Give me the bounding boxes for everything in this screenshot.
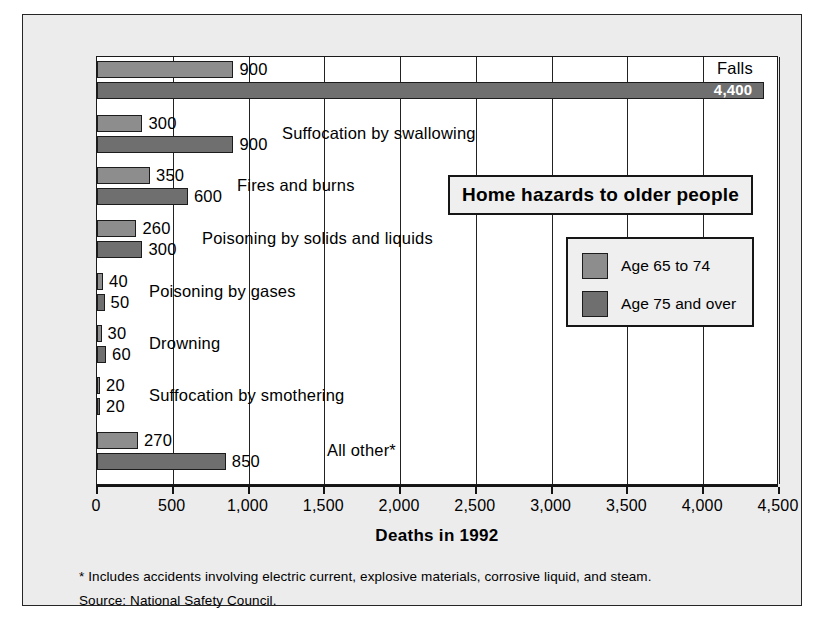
gridline [552, 57, 553, 484]
x-tick-label: 1,500 [303, 497, 344, 515]
gridline [324, 57, 325, 484]
x-tick-label: 1,000 [227, 497, 268, 515]
gridline [400, 57, 401, 484]
bar-value-label: 20 [106, 397, 125, 416]
bar [97, 294, 105, 311]
legend: Age 65 to 74 Age 75 and over [566, 237, 754, 327]
category-label: Poisoning by gases [149, 282, 296, 301]
bar [97, 61, 233, 78]
legend-label-age-75-and-over: Age 75 and over [621, 295, 736, 313]
bar [97, 273, 103, 290]
x-tick-label: 0 [91, 497, 100, 515]
category-label: Falls [717, 59, 753, 78]
x-tick-label: 3,500 [606, 497, 647, 515]
bar-value-label: 60 [112, 345, 131, 364]
legend-item-age-65-to-74: Age 65 to 74 [582, 251, 752, 281]
chart-title-box: Home hazards to older people [448, 175, 753, 215]
bar [97, 82, 764, 99]
bar-value-label: 270 [144, 431, 172, 450]
category-label: Suffocation by swallowing [282, 124, 476, 143]
bar [97, 398, 100, 415]
chart-title: Home hazards to older people [462, 184, 739, 206]
bar [97, 346, 106, 363]
gridline [476, 57, 477, 484]
x-tick-label: 2,000 [379, 497, 420, 515]
bar-value-label: 260 [142, 219, 170, 238]
x-axis-title: Deaths in 1992 [96, 526, 778, 546]
bar [97, 453, 226, 470]
category-label: Drowning [149, 334, 220, 353]
bar-value-label: 4,400 [714, 81, 753, 98]
footnote-includes: * Includes accidents involving electric … [79, 569, 652, 584]
x-tick [248, 487, 250, 494]
gridline [779, 57, 780, 484]
legend-item-age-75-and-over: Age 75 and over [582, 289, 752, 319]
bar-value-label: 20 [106, 376, 125, 395]
gridline [249, 57, 250, 484]
legend-label-age-65-to-74: Age 65 to 74 [621, 257, 710, 275]
category-label: Poisoning by solids and liquids [202, 229, 433, 248]
bar-value-label: 300 [148, 114, 176, 133]
bar [97, 167, 150, 184]
x-tick-label: 3,000 [530, 497, 571, 515]
bar-value-label: 300 [148, 240, 176, 259]
bar-value-label: 900 [239, 60, 267, 79]
bar-value-label: 50 [111, 293, 130, 312]
bar-value-label: 900 [239, 135, 267, 154]
bar-value-label: 850 [232, 452, 260, 471]
x-tick [475, 487, 477, 494]
x-tick [626, 487, 628, 494]
bar [97, 241, 142, 258]
x-tick [551, 487, 553, 494]
x-tick-label: 4,000 [682, 497, 723, 515]
bar-value-label: 600 [194, 187, 222, 206]
category-label: All other* [327, 441, 396, 460]
x-tick [399, 487, 401, 494]
footnote-source: Source: National Safety Council. [79, 593, 277, 608]
bar-value-label: 40 [109, 272, 128, 291]
bar-value-label: 350 [156, 166, 184, 185]
bar [97, 115, 142, 132]
bar [97, 432, 138, 449]
x-tick [702, 487, 704, 494]
x-tick-label: 2,500 [454, 497, 495, 515]
category-label: Suffocation by smothering [149, 386, 344, 405]
bar-value-label: 30 [108, 324, 127, 343]
bar [97, 325, 102, 342]
x-tick [172, 487, 174, 494]
chart-card: 9004,400Falls300900Suffocation by swallo… [22, 14, 802, 606]
bar [97, 136, 233, 153]
bar [97, 377, 100, 394]
category-label: Fires and burns [237, 176, 355, 195]
bar [97, 188, 188, 205]
x-tick-label: 500 [158, 497, 185, 515]
bar [97, 220, 136, 237]
legend-swatch-age-65-to-74 [582, 253, 608, 279]
x-tick [323, 487, 325, 494]
legend-swatch-age-75-and-over [582, 291, 608, 317]
x-tick [778, 487, 780, 494]
x-tick [96, 487, 98, 494]
x-tick-label: 4,500 [757, 497, 798, 515]
x-axis: 05001,0001,5002,0002,5003,0003,5004,0004… [96, 485, 778, 487]
